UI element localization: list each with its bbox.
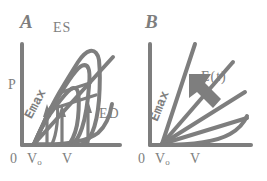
figure-container: A ES ED P Emax 0 Vo V	[0, 0, 267, 181]
panel-a: A ES ED P Emax 0 Vo V	[0, 0, 133, 181]
panel-b-et-line-3	[162, 92, 245, 144]
panel-b-plot	[133, 0, 267, 181]
panel-b: B E(t) Emax 0 Vo V	[133, 0, 267, 181]
panel-a-plot	[0, 0, 133, 181]
